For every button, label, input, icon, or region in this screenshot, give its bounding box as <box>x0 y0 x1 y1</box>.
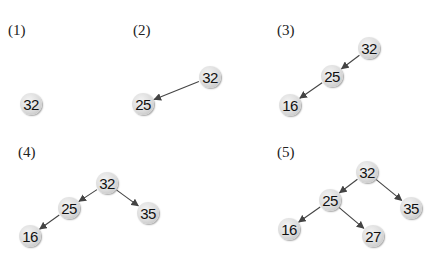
tree-node: 27 <box>362 225 384 247</box>
tree-edge-arrow <box>340 179 358 193</box>
tree-edge-arrow <box>300 83 322 98</box>
tree-edge-arrow <box>299 207 320 222</box>
tree-edge-arrow <box>79 190 97 202</box>
tree-edge-arrow <box>154 81 199 99</box>
tree-node: 32 <box>358 37 380 59</box>
tree-node: 35 <box>137 202 159 224</box>
tree-node: 32 <box>356 161 378 183</box>
step-label: (3) <box>277 23 295 38</box>
tree-node: 25 <box>132 93 154 115</box>
tree-node: 35 <box>400 197 422 219</box>
tree-node: 16 <box>279 94 301 116</box>
tree-edge-arrow <box>117 190 139 206</box>
tree-node: 16 <box>19 225 41 247</box>
tree-edge-arrow <box>342 55 360 69</box>
tree-node: 25 <box>58 197 80 219</box>
step-label: (4) <box>18 145 36 160</box>
tree-node: 25 <box>321 65 343 87</box>
tree-node: 25 <box>319 189 341 211</box>
tree-node: 32 <box>20 93 42 115</box>
tree-edge-arrow <box>339 208 364 229</box>
tree-edge-arrow <box>376 180 401 201</box>
tree-node: 32 <box>199 66 221 88</box>
step-label: (5) <box>277 145 295 160</box>
tree-node: 16 <box>278 218 300 240</box>
diagram-canvas: (1)32(2)3225(3)322516(4)32253516(5)32253… <box>0 0 441 258</box>
step-label: (2) <box>133 23 151 38</box>
tree-edge-arrow <box>40 215 60 229</box>
step-label: (1) <box>8 23 26 38</box>
tree-node: 32 <box>96 172 118 194</box>
